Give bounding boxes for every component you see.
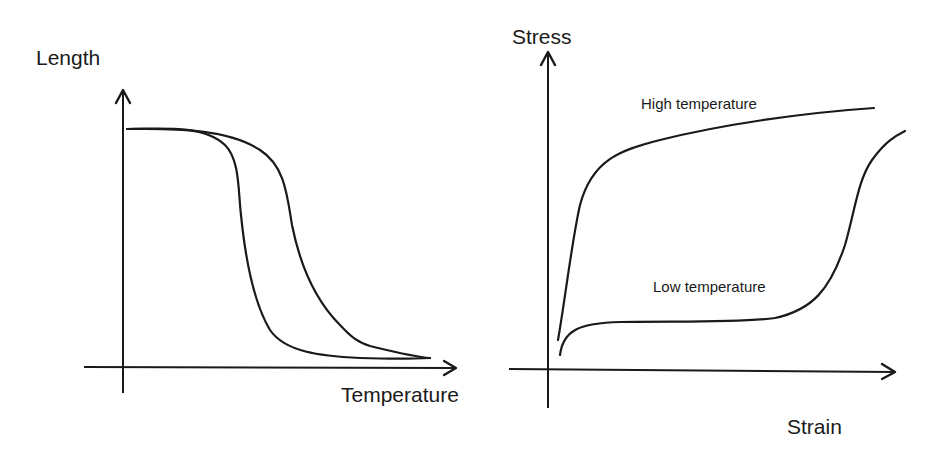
x-axis-label: Temperature — [341, 383, 459, 406]
x-axis — [84, 367, 455, 368]
low-temperature-label: Low temperature — [653, 278, 766, 295]
x-axis — [509, 369, 894, 372]
high-temperature-label: High temperature — [641, 95, 757, 112]
length-temperature-diagram: Length Temperature — [36, 46, 459, 406]
inner-curve — [127, 128, 430, 358]
y-axis-label: Stress — [512, 25, 572, 48]
outer-curve — [127, 129, 430, 358]
y-axis-label: Length — [36, 46, 100, 69]
diagram-canvas: Length Temperature Stress Strain High te… — [0, 0, 945, 458]
low-temperature-curve — [560, 131, 905, 355]
stress-strain-diagram: Stress Strain High temperature Low tempe… — [509, 25, 905, 438]
x-axis-label: Strain — [787, 415, 842, 438]
high-temperature-curve — [558, 108, 874, 340]
